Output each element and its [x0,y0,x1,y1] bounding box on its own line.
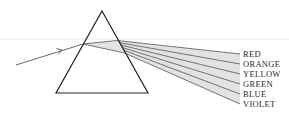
label-green: GREEN [243,79,273,89]
label-orange: ORANGE [243,59,280,69]
prism-dispersion-diagram: RED ORANGE YELLOW GREEN BLUE VIOLET [0,0,289,117]
label-violet: VIOLET [243,99,275,109]
label-yellow: YELLOW [243,69,281,79]
label-blue: BLUE [243,89,266,99]
label-red: RED [243,49,261,59]
